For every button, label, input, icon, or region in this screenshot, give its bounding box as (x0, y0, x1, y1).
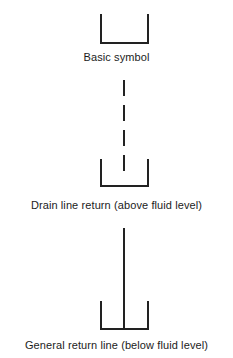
diagram-canvas: Basic symbol Drain line return (above fl… (0, 0, 233, 358)
caption-drain-line-return: Drain line return (above fluid level) (0, 199, 233, 212)
caption-general-return-line: General return line (below fluid level) (0, 339, 233, 352)
caption-basic-symbol: Basic symbol (0, 51, 233, 64)
